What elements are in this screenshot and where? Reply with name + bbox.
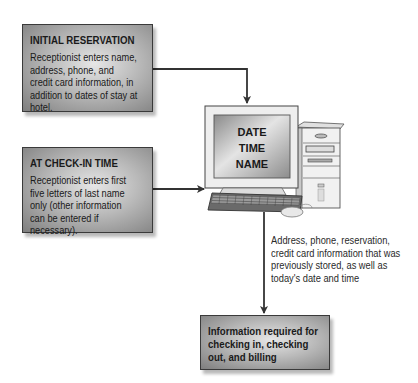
initial-reservation-title: INITIAL RESERVATION: [30, 34, 136, 46]
computer-monitor-icon: DATE TIME NAME: [205, 106, 298, 195]
screen-line-date: DATE: [237, 126, 266, 138]
check-in-time-box: AT CHECK-IN TIME Receptionist enters fir…: [22, 147, 153, 233]
screen-line-time: TIME: [239, 142, 265, 154]
computer-tower-icon: [296, 122, 344, 208]
output-information-text: Information required for checking in, ch…: [208, 325, 328, 364]
stored-information-note: Address, phone, reservation, credit card…: [271, 235, 411, 285]
arrow-reservation-to-computer: [153, 69, 247, 103]
check-in-time-text: Receptionist enters first five letters o…: [30, 175, 139, 238]
check-in-time-title: AT CHECK-IN TIME: [30, 157, 136, 169]
screen-line-name: NAME: [236, 158, 268, 170]
initial-reservation-box: INITIAL RESERVATION Receptionist enters …: [22, 24, 153, 112]
initial-reservation-text: Receptionist enters name, address, phone…: [30, 52, 139, 115]
output-information-box: Information required for checking in, ch…: [200, 315, 330, 370]
